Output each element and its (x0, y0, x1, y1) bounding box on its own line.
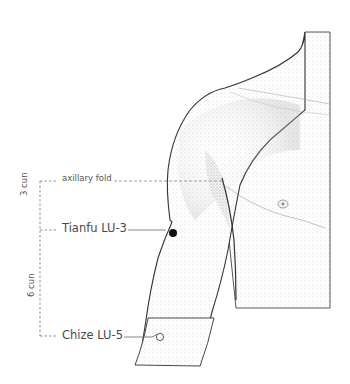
three-cun-measure-label: 3 cun (20, 172, 29, 196)
tianfu-label: Tianfu LU-3 (62, 223, 127, 235)
forearm-outline (135, 318, 214, 366)
chize-label: Chize LU-5 (62, 330, 123, 342)
axillary-fold-label: axillary fold (62, 174, 112, 183)
tianfu-point-marker (169, 229, 177, 237)
acupuncture-diagram: axillary fold Tianfu LU-3 Chize LU-5 3 c… (0, 0, 350, 384)
chize-point-marker (156, 333, 163, 340)
arm-illustration (0, 0, 350, 384)
six-cun-measure-label: 6 cun (27, 273, 36, 297)
